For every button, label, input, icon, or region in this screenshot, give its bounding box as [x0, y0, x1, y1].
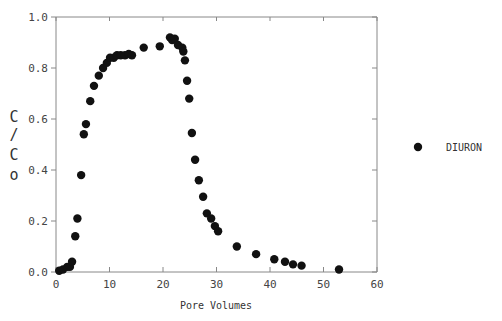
y-tick-label: 0.0: [28, 266, 48, 279]
data-point: [181, 56, 189, 64]
data-points: [55, 33, 343, 275]
legend: DIURON: [414, 142, 482, 153]
x-tick-label: 10: [103, 278, 116, 291]
data-point: [188, 129, 196, 137]
data-point: [90, 82, 98, 90]
x-tick-label: 20: [156, 278, 169, 291]
data-point: [335, 265, 343, 273]
y-tick-label: 0.2: [28, 215, 48, 228]
data-point: [156, 42, 164, 50]
data-point: [68, 258, 76, 266]
y-axis-title: C/Co: [9, 108, 18, 184]
data-point: [207, 214, 215, 222]
y-tick-label: 0.8: [28, 62, 48, 75]
data-point: [179, 47, 187, 55]
data-point: [289, 260, 297, 268]
y-tick-label: 0.6: [28, 113, 48, 126]
x-tick-label: 0: [53, 278, 60, 291]
data-point: [185, 94, 193, 102]
data-point: [183, 77, 191, 85]
data-point: [297, 261, 305, 269]
data-point: [95, 71, 103, 79]
data-point: [214, 227, 222, 235]
y-tick-label: 0.4: [28, 164, 48, 177]
y-axis-title-char: C: [9, 108, 18, 126]
data-point: [270, 255, 278, 263]
breakthrough-chart: 01020304050600.00.20.40.60.81.0 C/Co Por…: [0, 0, 502, 321]
data-point: [191, 156, 199, 164]
data-point: [77, 171, 85, 179]
data-point: [281, 258, 289, 266]
data-point: [80, 130, 88, 138]
legend-label-diuron: DIURON: [446, 142, 482, 153]
plot-axes: 01020304050600.00.20.40.60.81.0: [28, 11, 384, 291]
x-tick-label: 60: [370, 278, 383, 291]
x-tick-label: 40: [263, 278, 276, 291]
y-axis-title-char: /: [9, 126, 18, 144]
data-point: [82, 120, 90, 128]
data-point: [128, 51, 136, 59]
x-tick-label: 50: [317, 278, 330, 291]
x-axis-title: Pore Volumes: [180, 300, 252, 311]
legend-marker-icon: [414, 143, 422, 151]
data-point: [195, 176, 203, 184]
x-tick-label: 30: [210, 278, 223, 291]
data-point: [140, 43, 148, 51]
y-axis-title-char: C: [9, 146, 18, 164]
data-point: [199, 193, 207, 201]
data-point: [71, 232, 79, 240]
y-tick-label: 1.0: [28, 11, 48, 24]
y-axis-title-char: o: [9, 166, 18, 184]
data-point: [252, 250, 260, 258]
data-point: [86, 97, 94, 105]
data-point: [233, 242, 241, 250]
data-point: [73, 214, 81, 222]
